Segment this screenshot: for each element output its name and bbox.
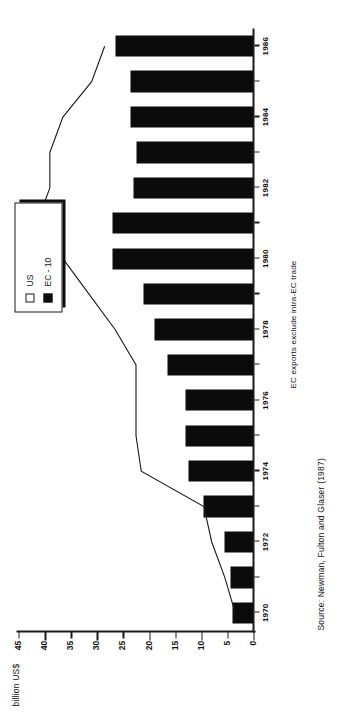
category-axis-line [252, 28, 254, 632]
category-tick-label: 1986 [260, 36, 269, 55]
value-tick-label: 25 [118, 640, 127, 718]
value-tick-label: 30 [92, 640, 101, 718]
note-source: Source: Newman, Fulton and Glaser (1987) [315, 458, 325, 630]
category-tick [254, 186, 259, 187]
category-tick [254, 328, 259, 329]
value-tick [201, 631, 202, 640]
value-tick-label: 10 [197, 640, 206, 718]
value-tick [18, 631, 19, 638]
category-tick [254, 505, 259, 506]
category-tick-label: 1976 [260, 391, 269, 410]
category-tick [254, 257, 259, 258]
chart-page: billion US$ 454035302520151050 197019721… [0, 0, 353, 718]
value-tick-label: 40 [40, 640, 49, 718]
note-trade: EC exports exclude intra-EC trade [288, 260, 297, 388]
legend-item-ec10: EC - 10 [43, 257, 52, 302]
value-tick-label: 45 [14, 640, 23, 718]
value-tick [175, 631, 176, 638]
category-tick-label: 1974 [260, 461, 269, 480]
category-tick [254, 292, 259, 293]
value-tick [70, 631, 71, 638]
category-tick [254, 576, 259, 577]
value-tick-label: 0 [249, 640, 258, 718]
category-tick [254, 434, 259, 435]
legend-box: US EC - 10 [14, 202, 62, 312]
category-tick [254, 399, 259, 400]
category-tick [254, 44, 259, 45]
value-axis-line [16, 630, 255, 632]
value-tick-label: 20 [144, 640, 153, 718]
category-tick [254, 611, 259, 612]
category-tick [254, 540, 259, 541]
value-tick [122, 631, 123, 638]
category-tick [254, 221, 259, 222]
chart-canvas: billion US$ 454035302520151050 197019721… [0, 0, 353, 718]
legend-swatch-hollow-icon [25, 293, 34, 302]
value-tick-label: 5 [223, 640, 232, 718]
category-tick-label: 1982 [260, 178, 269, 197]
legend-label-ec10: EC - 10 [43, 257, 52, 286]
value-tick [96, 631, 97, 640]
category-tick-label: 1980 [260, 249, 269, 268]
legend-swatch-filled-icon [43, 293, 52, 302]
category-tick [254, 469, 259, 470]
value-tick [227, 631, 228, 638]
value-tick-label: 35 [66, 640, 75, 718]
legend-label-us: US [25, 274, 34, 286]
plot-area [18, 28, 253, 630]
value-tick [149, 631, 150, 640]
category-tick [254, 363, 259, 364]
category-tick-label: 1972 [260, 532, 269, 551]
category-tick-label: 1984 [260, 107, 269, 126]
category-tick [254, 80, 259, 81]
category-tick [254, 115, 259, 116]
category-tick-label: 1970 [260, 603, 269, 622]
category-tick [254, 151, 259, 152]
value-tick [44, 631, 45, 640]
legend-item-us: US [25, 274, 34, 302]
line-series-us [18, 28, 253, 630]
value-tick-label: 15 [170, 640, 179, 718]
category-tick-label: 1978 [260, 320, 269, 339]
